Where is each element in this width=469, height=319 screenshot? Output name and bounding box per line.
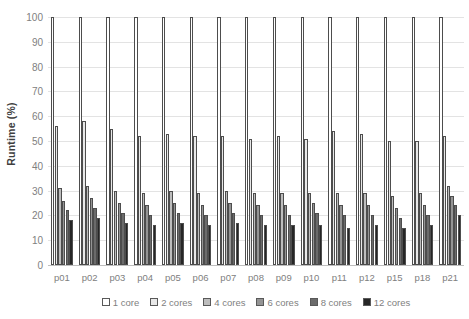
y-axis-tick-label: 40: [32, 160, 43, 171]
y-axis-tick-labels: 1009080706050403020100: [20, 17, 46, 265]
legend-item[interactable]: 2 cores: [150, 297, 192, 308]
legend-label: 12 cores: [374, 297, 410, 308]
legend-swatch-icon: [363, 298, 371, 306]
legend-label: 1 core: [113, 297, 139, 308]
bar: [291, 225, 294, 265]
legend-item[interactable]: 4 cores: [203, 297, 245, 308]
x-axis-tick-label: p05: [159, 269, 187, 287]
x-axis-tick-label: p02: [76, 269, 104, 287]
bar: [458, 215, 461, 265]
bar: [125, 223, 128, 265]
bar-group: [103, 17, 131, 265]
legend-item[interactable]: 12 cores: [363, 297, 410, 308]
x-axis-tick-label: p04: [131, 269, 159, 287]
x-axis-tick-label: p10: [298, 269, 326, 287]
bar: [69, 220, 72, 265]
chart-legend: 1 core2 cores4 cores6 cores8 cores12 cor…: [48, 292, 464, 312]
legend-swatch-icon: [203, 298, 211, 306]
x-axis-tick-label: p07: [214, 269, 242, 287]
bar: [153, 225, 156, 265]
legend-label: 6 cores: [267, 297, 298, 308]
legend-swatch-icon: [310, 298, 318, 306]
bar: [97, 218, 100, 265]
bar-group: [381, 17, 409, 265]
bar-group: [353, 17, 381, 265]
x-axis-tick-label: p09: [270, 269, 298, 287]
x-axis-tick-label: p18: [409, 269, 437, 287]
gridline: [48, 265, 464, 266]
x-axis-tick-label: p12: [353, 269, 381, 287]
legend-swatch-icon: [256, 298, 264, 306]
x-axis-tick-label: p03: [103, 269, 131, 287]
bar-group: [298, 17, 326, 265]
legend-item[interactable]: 6 cores: [256, 297, 298, 308]
y-axis-tick-label: 100: [26, 12, 43, 23]
bar-group: [76, 17, 104, 265]
bar: [319, 225, 322, 265]
bar-chart: Runtime (%) 1009080706050403020100 p01p0…: [0, 0, 469, 319]
bar: [264, 225, 267, 265]
bar-group: [270, 17, 298, 265]
bar: [236, 223, 239, 265]
bar: [208, 225, 211, 265]
bar-group: [187, 17, 215, 265]
y-axis-tick-label: 0: [37, 260, 43, 271]
x-axis-tick-label: p21: [436, 269, 464, 287]
bar-group: [436, 17, 464, 265]
x-axis-tick-label: p11: [325, 269, 353, 287]
bar: [180, 223, 183, 265]
x-axis-tick-label: p01: [48, 269, 76, 287]
bar-group: [214, 17, 242, 265]
y-axis-tick-label: 80: [32, 61, 43, 72]
y-axis-tick-label: 10: [32, 235, 43, 246]
bar-group: [409, 17, 437, 265]
x-axis-tick-label: p08: [242, 269, 270, 287]
legend-swatch-icon: [102, 298, 110, 306]
plot-area: [48, 17, 464, 265]
legend-item[interactable]: 8 cores: [310, 297, 352, 308]
bar: [347, 228, 350, 265]
bar-groups: [48, 17, 464, 265]
bar-group: [159, 17, 187, 265]
legend-label: 4 cores: [214, 297, 245, 308]
y-axis-tick-label: 90: [32, 36, 43, 47]
legend-label: 2 cores: [161, 297, 192, 308]
y-axis-tick-label: 70: [32, 86, 43, 97]
bar-group: [48, 17, 76, 265]
y-axis-title: Runtime (%): [2, 0, 20, 268]
legend-swatch-icon: [150, 298, 158, 306]
y-axis-tick-label: 30: [32, 185, 43, 196]
y-axis-tick-label: 20: [32, 210, 43, 221]
bar: [430, 225, 433, 265]
x-axis-tick-label: p15: [381, 269, 409, 287]
bar-group: [131, 17, 159, 265]
bar-group: [325, 17, 353, 265]
bar: [375, 225, 378, 265]
y-axis-tick-label: 50: [32, 136, 43, 147]
bar: [402, 228, 405, 265]
legend-label: 8 cores: [321, 297, 352, 308]
bar-group: [242, 17, 270, 265]
y-axis-tick-label: 60: [32, 111, 43, 122]
y-axis-title-text: Runtime (%): [5, 102, 17, 165]
legend-item[interactable]: 1 core: [102, 297, 139, 308]
x-axis-tick-labels: p01p02p03p04p05p06p07p08p09p10p11p12p15p…: [48, 269, 464, 287]
x-axis-tick-label: p06: [187, 269, 215, 287]
